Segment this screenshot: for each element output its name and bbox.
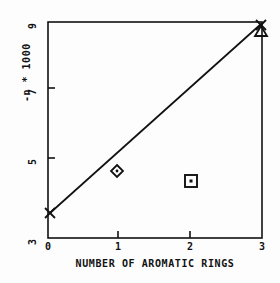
x-tick-label-1: 1 — [110, 242, 126, 252]
y-tick-label-9: 9 — [28, 15, 38, 29]
x-tick-label-0: 0 — [40, 242, 56, 252]
x-tick-label-3: 3 — [254, 242, 270, 252]
plot-frame — [48, 22, 262, 238]
y-axis-title: -n * 1000 — [22, 43, 32, 102]
y-tick-label-5: 5 — [28, 151, 38, 165]
data-point-square-x2 — [185, 175, 197, 187]
y-tick-label-3: 3 — [28, 231, 38, 245]
data-point-diamond-x1 — [111, 165, 123, 177]
x-axis-title: NUMBER OF AROMATIC RINGS — [48, 259, 262, 269]
data-point-cross-x0 — [45, 208, 55, 218]
chart-figure: 9 7 5 3 -n * 1000 0 1 2 3 NUMBER OF AROM… — [0, 0, 280, 283]
regression-line — [50, 24, 261, 213]
x-axis-ticks — [118, 231, 190, 238]
y-axis-ticks — [48, 88, 55, 158]
x-tick-label-2: 2 — [182, 242, 198, 252]
scatter-plot-canvas — [0, 0, 280, 283]
